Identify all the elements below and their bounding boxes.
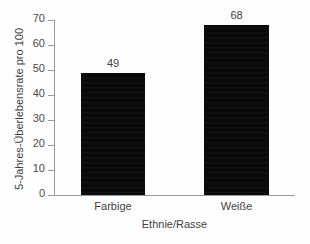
- y-axis-tick-mark: [48, 45, 55, 46]
- y-axis-tick-mark: [48, 70, 55, 71]
- x-axis-category-label: Weiße: [184, 200, 289, 212]
- bar-value-label: 68: [204, 9, 269, 21]
- y-axis-tick-mark: [48, 145, 55, 146]
- bar: [204, 25, 269, 195]
- y-axis-tick-label: 60: [33, 37, 45, 49]
- y-axis-tick-label: 20: [33, 137, 45, 149]
- y-axis-tick-label: 10: [33, 162, 45, 174]
- y-axis-tick-label: 40: [33, 87, 45, 99]
- y-axis-tick-label: 0: [39, 187, 45, 199]
- bar-chart-figure: 010203040506070 4968 FarbigeWeiße Ethnie…: [0, 0, 310, 244]
- plot-area: 010203040506070 4968 FarbigeWeiße Ethnie…: [0, 0, 310, 244]
- y-axis-tick-mark: [48, 95, 55, 96]
- y-axis-title: 5-Jahres-Überlebensrate pro 100: [13, 19, 25, 199]
- bar-value-label: 49: [81, 57, 145, 69]
- y-axis-tick-mark: [48, 170, 55, 171]
- y-axis-tick-label: 70: [33, 12, 45, 24]
- y-axis-tick-label: 30: [33, 112, 45, 124]
- y-axis-tick-mark: [48, 20, 55, 21]
- y-axis-tick-mark: [48, 120, 55, 121]
- x-axis-category-label: Farbige: [61, 200, 165, 212]
- y-axis-tick-mark: [48, 195, 55, 196]
- y-axis-tick-label: 50: [33, 62, 45, 74]
- x-axis-line: [54, 195, 295, 196]
- x-axis-title: Ethnie/Rasse: [54, 218, 295, 230]
- bar: [81, 73, 145, 196]
